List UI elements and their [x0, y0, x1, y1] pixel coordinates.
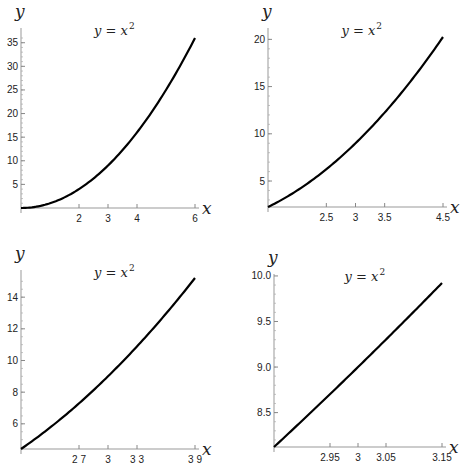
chart-title: y = x [93, 265, 129, 280]
y-tick-label: 9.5 [257, 316, 271, 327]
x-tick-label: 3 3 [130, 454, 144, 465]
y-tick-label: 25 [7, 84, 19, 95]
curve-y-equals-x-squared [268, 37, 443, 207]
x-tick-label: 3 [105, 213, 111, 224]
curve-y-equals-x-squared [21, 38, 195, 208]
x-axis-label: x [450, 197, 460, 217]
y-tick-label: 5 [12, 179, 18, 190]
y-tick-label: 20 [254, 34, 266, 45]
x-tick-label: 3 [355, 452, 361, 463]
x-tick-label: 3 [105, 454, 111, 465]
x-tick-label: 3 9 [188, 454, 202, 465]
chart-title: y = x [341, 23, 377, 38]
y-tick-label: 12 [7, 323, 19, 334]
y-tick-label: 5 [259, 176, 265, 187]
x-axis-label: x [202, 439, 212, 459]
curve-y-equals-x-squared [274, 283, 442, 447]
y-tick-label: 15 [7, 132, 19, 143]
x-tick-label: 2.95 [320, 452, 340, 463]
y-tick-label: 14 [7, 292, 19, 303]
y-tick-label: 20 [7, 108, 19, 119]
x-tick-label: 4 [134, 213, 140, 224]
y-tick-label: 10 [7, 355, 19, 366]
y-tick-label: 8.5 [257, 407, 271, 418]
y-axis-label: y [267, 247, 278, 267]
x-tick-label: 4.5 [436, 212, 450, 223]
x-tick-label: 3 [353, 212, 359, 223]
chart-title-exponent: 2 [129, 263, 135, 273]
chart-panel-0-6: 51015202530352346xyy = x2 [0, 0, 233, 237]
x-tick-label: 2 7 [72, 454, 86, 465]
chart-title-exponent: 2 [376, 21, 382, 31]
plot-area: 51015202.533.54.5xyy = x2 [233, 0, 466, 237]
chart-title: y = x [344, 269, 380, 284]
chart-title-exponent: 2 [129, 21, 135, 31]
chart-panel-1.5-4.5: 51015202.533.54.5xyy = x2 [233, 0, 466, 237]
y-tick-label: 30 [7, 61, 19, 72]
x-tick-label: 3.05 [376, 452, 396, 463]
y-axis-label: y [14, 243, 25, 263]
y-tick-label: 10.0 [252, 270, 272, 281]
x-tick-label: 6 [192, 213, 198, 224]
y-tick-label: 9.0 [257, 362, 271, 373]
y-tick-label: 6 [12, 418, 18, 429]
x-tick-label: 3.5 [378, 212, 392, 223]
chart-panel-2.85-3.15: 8.59.09.510.02.9533.053.15xyy = x2 [233, 237, 466, 474]
y-tick-label: 8 [12, 387, 18, 398]
plot-area: 681012142 733 33 9xyy = x2 [0, 237, 233, 474]
x-tick-label: 2.5 [319, 212, 333, 223]
chart-title: y = x [93, 23, 129, 38]
y-tick-label: 35 [7, 37, 19, 48]
y-tick-label: 10 [7, 155, 19, 166]
plot-area: 8.59.09.510.02.9533.053.15xyy = x2 [233, 237, 466, 474]
chart-panel-2.1-3.9: 681012142 733 33 9xyy = x2 [0, 237, 233, 474]
curve-y-equals-x-squared [21, 278, 195, 449]
plot-area: 51015202530352346xyy = x2 [0, 0, 233, 237]
x-axis-label: x [449, 437, 459, 457]
y-axis-label: y [261, 1, 272, 21]
chart-title-exponent: 2 [379, 267, 385, 277]
y-tick-label: 10 [254, 128, 266, 139]
y-tick-label: 15 [254, 81, 266, 92]
y-axis-label: y [14, 1, 25, 21]
x-axis-label: x [202, 198, 212, 218]
x-tick-label: 2 [76, 213, 82, 224]
